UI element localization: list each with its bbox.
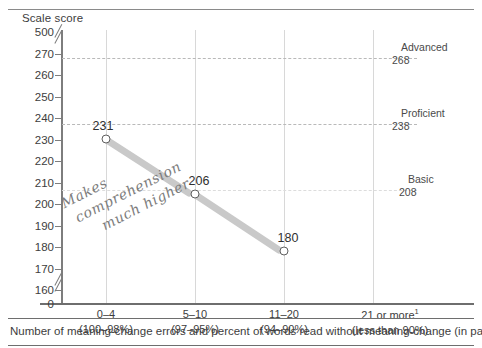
y-tick-label: 500 <box>14 26 54 38</box>
vertical-gridline <box>195 30 196 303</box>
axis-break-lower-icon <box>54 276 70 290</box>
y-tick-label: 250 <box>14 91 54 103</box>
y-tick-mark <box>55 75 62 76</box>
data-point-label: 206 <box>189 174 210 188</box>
y-tick-label: 160 <box>14 284 54 296</box>
benchmark-value: 268 <box>392 54 448 67</box>
x-axis-line <box>40 303 474 305</box>
vertical-gridline <box>106 30 107 303</box>
series-segment <box>193 192 283 255</box>
figure-caption: Number of meaning-change errors and perc… <box>10 325 474 337</box>
y-tick-label: 260 <box>14 69 54 81</box>
y-tick-mark <box>55 140 62 141</box>
data-point[interactable] <box>280 247 289 256</box>
benchmark-label-basic: Basic 208 <box>399 173 434 199</box>
figure-container: Scale score 500 270 260 250 240 230 220 … <box>0 0 482 348</box>
y-tick-label: 190 <box>14 220 54 232</box>
benchmark-name: Advanced <box>392 41 448 54</box>
y-tick-label: 270 <box>14 48 54 60</box>
benchmark-name: Proficient <box>392 107 445 120</box>
y-tick-label: 230 <box>14 134 54 146</box>
y-tick-label: 180 <box>14 241 54 253</box>
y-tick-mark <box>55 54 62 55</box>
y-tick-mark <box>55 226 62 227</box>
top-rule <box>8 9 474 10</box>
data-point-label: 180 <box>278 231 299 245</box>
y-tick-label: 240 <box>14 112 54 124</box>
y-tick-label: 220 <box>14 155 54 167</box>
data-point[interactable] <box>102 135 111 144</box>
y-axis-title: Scale score <box>22 12 83 24</box>
y-tick-label: 200 <box>14 198 54 210</box>
vertical-gridline <box>284 30 285 303</box>
y-tick-mark <box>55 247 62 248</box>
benchmark-name: Basic <box>399 173 434 186</box>
benchmark-line-proficient <box>62 124 417 125</box>
y-tick-mark <box>55 204 62 205</box>
benchmark-label-advanced: Advanced 268 <box>392 41 448 67</box>
y-tick-label: 170 <box>14 263 54 275</box>
y-tick-label: 210 <box>14 177 54 189</box>
data-point-label: 231 <box>93 119 114 133</box>
benchmark-value: 208 <box>399 186 434 199</box>
benchmark-value: 238 <box>392 120 445 133</box>
caption-top-rule <box>8 318 474 319</box>
benchmark-line-advanced <box>62 58 417 59</box>
y-tick-mark <box>55 161 62 162</box>
y-tick-mark <box>55 97 62 98</box>
bottom-rule <box>8 345 474 346</box>
y-tick-mark <box>55 269 62 270</box>
footnote-marker: 1 <box>415 307 419 316</box>
benchmark-label-proficient: Proficient 238 <box>392 107 445 133</box>
y-tick-mark <box>55 183 62 184</box>
axis-break-upper-icon <box>54 28 70 42</box>
y-axis-line <box>61 30 63 304</box>
vertical-gridline <box>373 30 374 303</box>
y-tick-mark <box>55 118 62 119</box>
